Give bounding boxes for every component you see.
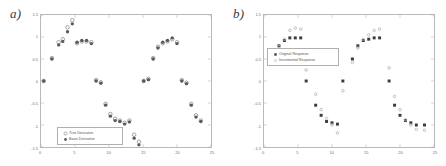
panel-b-legend: Original Response Incremental Response: [267, 48, 339, 66]
data-point: [294, 27, 297, 30]
data-point: [57, 43, 60, 46]
data-point: [399, 114, 402, 117]
data-point: [399, 108, 402, 111]
data-point: [314, 93, 317, 96]
x-tick-label: 25: [210, 150, 214, 155]
data-point: [367, 34, 370, 37]
y-tick-label: 0: [245, 79, 261, 84]
x-tick-label: 10: [330, 150, 334, 155]
data-point: [66, 26, 70, 30]
x-tick-label: 15: [364, 150, 368, 155]
data-point: [104, 104, 107, 107]
y-tick-label: 1.5: [245, 12, 261, 17]
data-point: [393, 104, 396, 107]
data-point: [156, 46, 159, 49]
x-tick-label: 10: [107, 150, 111, 155]
data-point: [331, 124, 334, 127]
data-point: [66, 30, 69, 33]
data-point: [166, 39, 169, 42]
legend-item: Incremental Response: [271, 57, 335, 63]
data-point: [423, 124, 426, 127]
y-tick-label: 0.5: [22, 56, 38, 61]
legend-item: Basis Derivative: [61, 136, 119, 142]
data-point: [373, 36, 376, 39]
data-point: [314, 104, 317, 107]
panel-a: a) -1.5-1-0.500.511.50510152025 True Der…: [0, 0, 223, 166]
data-point: [161, 41, 164, 44]
y-tick-label: 0.5: [245, 56, 261, 61]
data-point: [85, 39, 88, 42]
data-point: [109, 115, 112, 118]
data-point: [61, 40, 64, 43]
data-point: [388, 80, 391, 83]
x-tick-label: 25: [433, 150, 437, 155]
panel-b-label: b): [233, 6, 244, 22]
data-point: [415, 128, 418, 131]
data-point: [118, 120, 121, 123]
data-point: [320, 108, 323, 111]
x-tick-label: 20: [398, 150, 402, 155]
data-point: [373, 29, 376, 32]
x-tick-label: 5: [296, 150, 298, 155]
data-point: [99, 82, 102, 85]
data-point: [80, 39, 83, 42]
y-tick-label: -1.5: [245, 146, 261, 151]
y-tick-label: -1: [245, 123, 261, 128]
data-point: [190, 104, 193, 107]
data-point: [42, 79, 45, 82]
data-point: [123, 122, 126, 125]
x-tick-label: 0: [39, 150, 41, 155]
filled-square-icon: [271, 52, 279, 57]
data-point: [180, 79, 183, 82]
data-point: [336, 132, 339, 135]
data-point: [137, 143, 140, 146]
y-tick-label: 1: [245, 34, 261, 39]
y-tick-label: 1.5: [22, 12, 38, 17]
data-point: [415, 124, 418, 127]
y-tick-label: -1.5: [22, 146, 38, 151]
data-point: [137, 140, 141, 144]
panel-b: b) -1.5-1-0.500.511.50510152025 Original…: [223, 0, 446, 166]
y-tick-label: 1: [22, 34, 38, 39]
y-tick-label: -1: [22, 123, 38, 128]
data-point: [410, 124, 413, 127]
data-point: [299, 28, 302, 31]
legend-label: Basis Derivative: [69, 136, 95, 142]
data-point: [341, 80, 344, 83]
data-point: [325, 117, 328, 120]
data-point: [378, 28, 381, 31]
data-point: [128, 120, 131, 123]
data-point: [50, 57, 53, 60]
data-point: [199, 120, 202, 123]
data-point: [351, 58, 354, 61]
data-point: [152, 57, 155, 60]
legend-label: Incremental Response: [279, 57, 315, 63]
data-point: [75, 41, 78, 44]
data-point: [71, 22, 74, 25]
figure-container: a) -1.5-1-0.500.511.50510152025 True Der…: [0, 0, 446, 166]
data-point: [288, 36, 291, 39]
data-point: [325, 120, 328, 123]
x-tick-label: 20: [175, 150, 179, 155]
data-point: [336, 123, 339, 126]
data-point: [142, 79, 145, 82]
y-tick-label: -0.5: [245, 101, 261, 106]
data-point: [423, 129, 426, 132]
data-point: [194, 115, 197, 118]
data-point: [388, 67, 391, 70]
data-point: [289, 29, 292, 32]
data-point: [351, 61, 354, 64]
data-point: [320, 114, 323, 117]
data-point: [113, 119, 116, 122]
x-tick-label: 5: [73, 150, 75, 155]
data-point: [305, 80, 308, 83]
panel-a-legend: True Derivative Basis Derivative: [57, 127, 123, 145]
data-point: [90, 42, 93, 45]
x-tick-label: 15: [141, 150, 145, 155]
panel-b-scatter-layer: [264, 15, 434, 147]
data-point: [147, 78, 150, 81]
data-point: [94, 79, 97, 82]
data-point: [132, 137, 135, 140]
data-point: [299, 36, 302, 39]
data-point: [171, 36, 174, 39]
